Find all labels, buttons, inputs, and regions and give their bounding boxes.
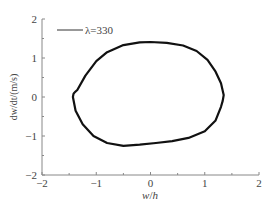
x-tick-label: 2	[256, 177, 262, 189]
data-series-loop	[73, 42, 224, 146]
tick-labels: −2−1012−2−1012	[25, 13, 261, 189]
y-tick-label: −1	[25, 130, 37, 142]
legend-label: λ=330	[85, 24, 114, 36]
y-tick-label: 1	[32, 52, 38, 64]
y-tick-label: −2	[25, 169, 37, 181]
legend: λ=330	[57, 24, 114, 36]
x-tick-label: −1	[90, 177, 102, 189]
x-tick-label: 0	[148, 177, 154, 189]
x-tick-label: 1	[202, 177, 208, 189]
y-axis-label: dw/dt/(m/s)	[8, 74, 20, 121]
x-tick-label: −2	[36, 177, 48, 189]
x-axis-label: w/h	[142, 189, 158, 201]
y-tick-label: 2	[32, 13, 38, 25]
chart: −2−1012−2−1012 λ=330 w/h dw/dt/(m/s)	[0, 0, 273, 211]
y-tick-label: 0	[32, 91, 38, 103]
